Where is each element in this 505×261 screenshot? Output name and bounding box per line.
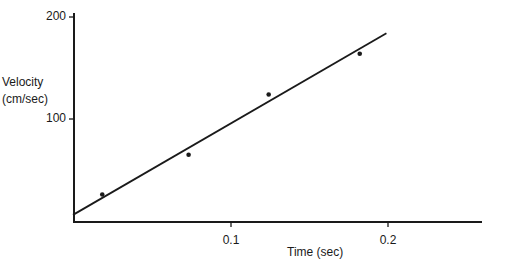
data-point: [186, 152, 191, 157]
fit-line-segment: [73, 33, 386, 215]
y-axis-label-line-1: Velocity: [2, 74, 48, 91]
axes: [69, 13, 482, 227]
chart-canvas: [0, 0, 505, 261]
y-tick-label: 100: [30, 111, 66, 125]
x-axis-label: Time (sec): [287, 245, 343, 259]
x-tick-label: 0.1: [211, 233, 251, 247]
y-tick-label: 200: [30, 9, 66, 23]
data-point: [100, 192, 105, 197]
data-point: [357, 51, 362, 56]
x-tick-label: 0.2: [368, 233, 408, 247]
y-axis-label: Velocity (cm/sec): [2, 74, 48, 108]
y-axis-label-line-2: (cm/sec): [2, 91, 48, 108]
best-fit-line: [73, 33, 386, 215]
data-point: [266, 92, 271, 97]
